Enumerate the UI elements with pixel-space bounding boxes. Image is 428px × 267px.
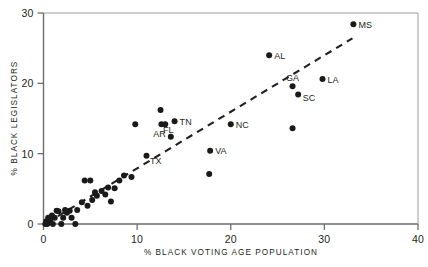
data-point-NC xyxy=(228,121,234,127)
data-point-11 xyxy=(158,107,164,113)
data-point-GA xyxy=(290,83,296,89)
data-point-48 xyxy=(42,221,48,227)
data-point-MS xyxy=(350,21,356,27)
trend-line xyxy=(47,38,352,222)
point-label-LA: LA xyxy=(328,75,339,85)
data-point-36 xyxy=(62,207,68,213)
tick-labels: 0102030400102030 xyxy=(21,7,424,245)
data-point-26 xyxy=(89,197,95,203)
y-tick-label-20: 20 xyxy=(21,77,33,89)
data-point-19 xyxy=(112,185,118,191)
chart-canvas: 0102030400102030 MSALLAGASCNCTNFLARTXVA … xyxy=(0,0,428,267)
point-label-VA: VA xyxy=(215,146,227,156)
x-tick-label-0: 0 xyxy=(40,233,46,245)
point-label-MS: MS xyxy=(358,20,372,30)
data-point-LA xyxy=(320,76,326,82)
x-tick-label-30: 30 xyxy=(318,233,330,245)
data-point-SC xyxy=(295,92,301,98)
data-point-40 xyxy=(54,208,60,214)
data-point-37 xyxy=(60,215,66,221)
y-tick-label-30: 30 xyxy=(21,7,33,19)
data-point-27 xyxy=(87,177,93,183)
data-point-VA xyxy=(207,148,213,154)
data-point-23 xyxy=(99,188,105,194)
data-point-12 xyxy=(132,121,138,127)
data-point-15 xyxy=(206,171,212,177)
data-point-16 xyxy=(129,174,135,180)
data-point-22 xyxy=(105,184,111,190)
data-point-20 xyxy=(108,198,114,204)
y-tick-label-10: 10 xyxy=(21,148,33,160)
data-point-29 xyxy=(85,203,91,209)
point-label-GA: GA xyxy=(286,73,299,83)
x-tick-label-20: 20 xyxy=(225,233,237,245)
data-point-AR xyxy=(168,134,174,140)
point-label-TN: TN xyxy=(180,117,192,127)
data-point-TX xyxy=(143,153,149,159)
data-point-31 xyxy=(74,207,80,213)
data-point-17 xyxy=(121,172,127,178)
x-tick-label-10: 10 xyxy=(131,233,143,245)
point-label-SC: SC xyxy=(303,93,316,103)
data-point-TN xyxy=(172,118,178,124)
data-point-33 xyxy=(69,215,75,221)
data-point-38 xyxy=(58,221,64,227)
data-point-18 xyxy=(116,177,122,183)
data-point-30 xyxy=(79,199,85,205)
x-tick-label-40: 40 xyxy=(412,233,424,245)
data-point-32 xyxy=(72,221,78,227)
data-point-25 xyxy=(92,189,98,195)
point-label-AL: AL xyxy=(274,51,285,61)
data-points xyxy=(42,21,356,227)
data-point-14 xyxy=(290,125,296,131)
data-point-28 xyxy=(82,177,88,183)
point-label-TX: TX xyxy=(150,156,162,166)
y-axis-title: % BLACK LEGISLATORS xyxy=(10,61,19,176)
x-axis-title: % BLACK VOTING AGE POPULATION xyxy=(144,248,318,257)
point-label-AR: AR xyxy=(153,129,166,139)
data-point-AL xyxy=(266,52,272,58)
y-tick-label-0: 0 xyxy=(27,218,33,230)
point-label-NC: NC xyxy=(236,120,250,130)
scatter-plot-figure: 0102030400102030 MSALLAGASCNCTNFLARTXVA … xyxy=(0,0,428,267)
regression-trend-line xyxy=(47,38,352,222)
